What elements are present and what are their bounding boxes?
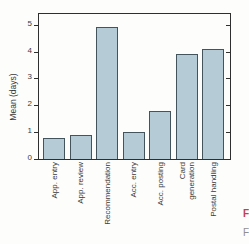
y-tick-right bbox=[226, 25, 230, 26]
y-tick-label: 4 bbox=[12, 46, 32, 56]
y-tick-left bbox=[34, 78, 39, 79]
bar-acc-entry bbox=[123, 132, 145, 159]
y-tick-left bbox=[34, 105, 39, 106]
y-tick-label: 5 bbox=[12, 19, 32, 29]
bar-app-entry bbox=[43, 138, 65, 159]
y-tick-right bbox=[226, 132, 230, 133]
figure-caption-marker: F bbox=[243, 208, 249, 219]
y-tick-right bbox=[226, 159, 230, 160]
bar-app-review bbox=[70, 135, 92, 159]
figure-caption-fragment: F bbox=[243, 227, 249, 238]
y-tick-label: 0 bbox=[12, 153, 32, 163]
x-axis-label-card-generation: Card generation bbox=[178, 162, 196, 234]
y-axis-title: Mean (days) bbox=[8, 57, 18, 137]
x-axis-label-acc-posting: Acc. posting bbox=[156, 162, 165, 234]
y-tick-right bbox=[226, 78, 230, 79]
x-axis-label-acc-entry: Acc. entry bbox=[129, 162, 138, 234]
bar-acc-posting bbox=[149, 111, 171, 159]
bar-chart-figure: 012345App. entryApp. reviewRecommendatio… bbox=[0, 0, 249, 244]
bar-card-generation bbox=[176, 54, 198, 159]
x-axis-label-app-review: App. review bbox=[76, 162, 85, 234]
x-axis-label-postal-handling: Postal handling bbox=[209, 162, 218, 234]
bar-recommendation bbox=[96, 27, 118, 159]
y-tick-left bbox=[34, 25, 39, 26]
x-axis-label-app-entry: App. entry bbox=[50, 162, 59, 234]
plot-area bbox=[38, 13, 231, 160]
y-tick-left bbox=[34, 52, 39, 53]
y-tick-right bbox=[226, 105, 230, 106]
y-tick-left bbox=[34, 132, 39, 133]
y-tick-left bbox=[34, 159, 39, 160]
y-tick-right bbox=[226, 52, 230, 53]
x-axis-label-recommendation: Recommendation bbox=[103, 162, 112, 234]
bar-postal-handling bbox=[202, 49, 224, 159]
